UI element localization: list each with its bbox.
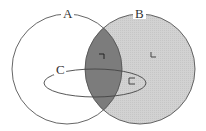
venn-diagram: A B C bbox=[0, 0, 206, 131]
venn-svg: A B C bbox=[0, 0, 206, 131]
label-c: C bbox=[56, 62, 65, 77]
label-a: A bbox=[63, 6, 73, 21]
label-b: B bbox=[135, 6, 144, 21]
